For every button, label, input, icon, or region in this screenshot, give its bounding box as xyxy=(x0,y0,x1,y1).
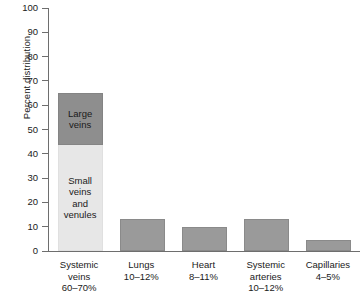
x-tick-label: Heart 8–11% xyxy=(172,259,234,282)
y-tick-label: 70 xyxy=(0,76,38,86)
x-tick-label: Systemic arteries 10–12% xyxy=(235,259,297,294)
y-tick-label: 60 xyxy=(0,100,38,110)
y-tick-label: 40 xyxy=(0,149,38,159)
bar-heart xyxy=(182,227,227,251)
y-tick-label: 100 xyxy=(0,3,38,13)
x-tick-label: Systemic veins 60–70% xyxy=(48,259,110,294)
bar-lungs xyxy=(120,219,165,251)
bar-systemic-arteries xyxy=(244,219,289,251)
x-tick-label: Capillaries 4–5% xyxy=(297,259,359,282)
bar-systemic-veins: Small veins and venulesLarge veins xyxy=(58,93,103,251)
bar-capillaries xyxy=(306,240,351,251)
y-tick-label: 90 xyxy=(0,27,38,37)
plot-area: Small veins and venulesLarge veins xyxy=(48,8,360,252)
percent-distribution-bar-chart: Percent distribution 0102030405060708090… xyxy=(0,0,364,305)
bar-segment-label: Small veins and venules xyxy=(64,175,97,221)
x-tick-label: Lungs 10–12% xyxy=(110,259,172,282)
y-tick-label: 0 xyxy=(0,246,38,256)
y-tick-label: 10 xyxy=(0,222,38,232)
y-tick-label: 50 xyxy=(0,125,38,135)
y-tick-label: 20 xyxy=(0,197,38,207)
y-tick-label: 80 xyxy=(0,52,38,62)
bar-segment: Large veins xyxy=(58,93,103,145)
y-tick-label: 30 xyxy=(0,173,38,183)
bar-segment: Small veins and venules xyxy=(58,145,103,251)
bar-segment-label: Large veins xyxy=(68,108,92,131)
